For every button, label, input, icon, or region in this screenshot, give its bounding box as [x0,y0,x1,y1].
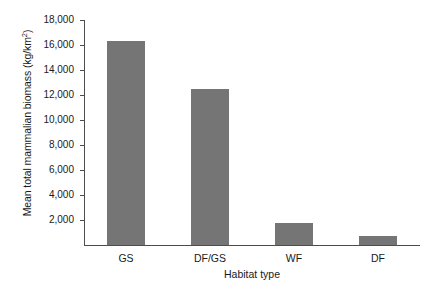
y-axis-title: Mean total mammalian biomass (kg/km2) [18,0,36,248]
y-axis-tick: 6,000 [0,170,84,171]
y-axis-tick: 12,000 [0,95,84,96]
x-axis-tick-label: DF [336,251,420,265]
y-axis-tick: 14,000 [0,70,84,71]
x-axis-tick-label: GS [84,251,168,265]
y-axis-tick-label: 18,000 [43,13,74,26]
y-axis-tick-label: 6,000 [49,163,74,176]
y-axis-tick-mark [80,70,84,71]
y-axis-tick-label: 14,000 [43,63,74,76]
bar-wf [275,223,313,245]
y-axis-tick-mark [80,120,84,121]
y-axis-tick-mark [80,95,84,96]
bar-df [359,236,397,245]
y-axis-tick-mark [80,170,84,171]
y-axis-tick: 4,000 [0,195,84,196]
x-axis-tick-label: WF [252,251,336,265]
y-axis-tick: 2,000 [0,220,84,221]
y-axis-tick-mark [80,220,84,221]
bar-df-gs [191,89,229,245]
bar-chart-figure: Mean total mammalian biomass (kg/km2) 2,… [0,0,435,295]
y-axis-tick-label: 4,000 [49,188,74,201]
y-axis-title-suffix: ) [21,30,33,33]
x-axis-line [84,245,420,246]
y-axis-tick-mark [80,195,84,196]
x-axis-tick-label: DF/GS [168,251,252,265]
y-axis-tick-mark [80,45,84,46]
y-axis-title-superscript: 2 [20,33,29,37]
y-axis-tick: 18,000 [0,20,84,21]
y-axis-tick-label: 12,000 [43,88,74,101]
y-axis-tick-mark [80,145,84,146]
y-axis-tick-label: 16,000 [43,38,74,51]
y-axis-tick: 8,000 [0,145,84,146]
y-axis-title-text: Mean total mammalian biomass (kg/km [21,37,33,216]
y-axis-tick: 16,000 [0,45,84,46]
bar-gs [107,41,145,245]
y-axis-tick: 10,000 [0,120,84,121]
y-axis-tick-mark [80,20,84,21]
y-axis-line [84,20,85,246]
x-axis-title: Habitat type [84,267,420,281]
y-axis-tick-label: 2,000 [49,213,74,226]
y-axis-tick-label: 8,000 [49,138,74,151]
y-axis-tick-label: 10,000 [43,113,74,126]
